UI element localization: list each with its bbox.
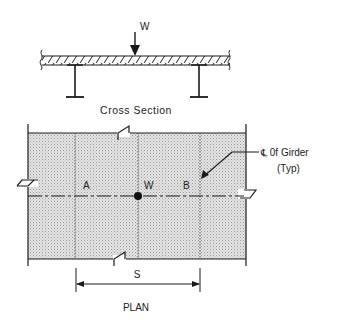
cross-section: W Cross Section [40, 21, 230, 116]
load-arrow-icon [130, 32, 140, 56]
girder-callout-line1: ℄ 0f Girder [260, 147, 309, 158]
plan-load-label: W [144, 180, 154, 191]
left-break-icon [16, 179, 38, 187]
girder-left [66, 65, 84, 97]
girder-b-label: B [183, 180, 190, 191]
girder-callout-line2: (Typ) [277, 163, 300, 174]
plan-title: PLAN [123, 302, 149, 313]
plan-view: A W B ℄ 0f Girder (Typ) S PLAN [16, 124, 309, 313]
bridge-deck-diagram: W Cross Section [0, 0, 338, 320]
girder-a-label: A [83, 180, 90, 191]
girder-right [190, 65, 208, 97]
load-point-icon [134, 192, 142, 200]
cross-section-load-label: W [140, 21, 150, 32]
right-break-icon [238, 189, 256, 199]
cross-section-title: Cross Section [100, 104, 172, 116]
left-break-icon [40, 50, 42, 70]
spacing-label: S [134, 269, 141, 280]
